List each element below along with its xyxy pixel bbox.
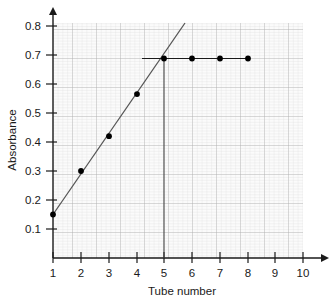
y-tick-label: 0.2 [25,194,41,206]
x-tick-label: 9 [272,267,278,279]
x-tick-label: 4 [134,267,141,279]
data-point [106,133,112,139]
x-axis-title: Tube number [148,285,216,297]
y-axis-title: Absorbance [6,109,18,170]
x-tick-label: 2 [78,267,84,279]
y-tick-label: 0.8 [25,20,41,32]
absorbance-chart: 0.8 0.7 0.6 0.5 0.4 0.3 0.2 0.1 1 2 3 [0,0,333,303]
y-tick-label: 0.5 [25,107,41,119]
y-tick-label: 0.4 [25,136,42,148]
data-point [134,91,140,97]
x-axis-tick-labels: 1 2 3 4 5 6 7 8 9 10 [50,267,310,279]
x-tick-label: 3 [106,267,112,279]
data-point [217,56,223,62]
x-tick-label: 10 [297,267,310,279]
x-tick-label: 7 [217,267,223,279]
x-tick-label: 6 [189,267,195,279]
y-axis-tick-labels: 0.8 0.7 0.6 0.5 0.4 0.3 0.2 0.1 [25,20,42,235]
y-tick-label: 0.3 [25,165,41,177]
data-point [161,56,167,62]
chart-canvas: 0.8 0.7 0.6 0.5 0.4 0.3 0.2 0.1 1 2 3 [0,0,333,303]
y-tick-label: 0.7 [25,49,41,61]
data-point [189,56,195,62]
x-tick-label: 8 [245,267,251,279]
x-tick-label: 1 [50,267,56,279]
x-tick-label: 5 [161,267,167,279]
y-tick-label: 0.6 [25,78,41,90]
data-point [50,212,56,218]
data-point [245,56,251,62]
data-point [78,168,84,174]
y-tick-label: 0.1 [25,223,41,235]
